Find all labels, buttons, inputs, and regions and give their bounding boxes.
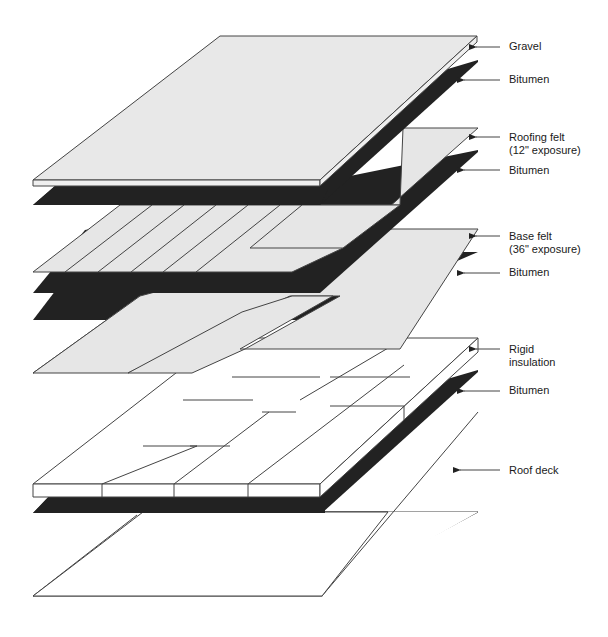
label-roofing-felt: Roofing felt (12" exposure): [509, 131, 581, 157]
label-bitumen-2: Bitumen: [509, 164, 549, 177]
label-gravel: Gravel: [509, 40, 541, 53]
label-bitumen-3: Bitumen: [509, 266, 549, 279]
label-bitumen-1: Bitumen: [509, 73, 549, 86]
label-base-felt: Base felt (36" exposure): [509, 230, 581, 256]
roof-layers-diagram: [0, 0, 608, 637]
label-roof-deck: Roof deck: [509, 464, 559, 477]
label-bitumen-4: Bitumen: [509, 384, 549, 397]
leader-lines: [460, 47, 500, 470]
label-rigid-insulation: Rigid insulation: [509, 343, 555, 369]
